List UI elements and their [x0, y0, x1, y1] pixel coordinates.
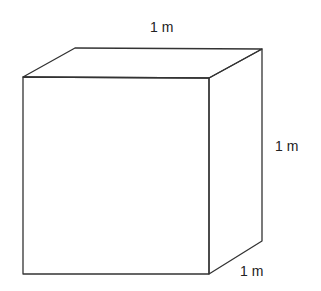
cube-right-face — [209, 49, 262, 274]
cube-top-face — [23, 48, 262, 78]
cube-diagram — [0, 0, 321, 291]
cube-front-face — [23, 77, 209, 274]
top-edge-dimension-label: 1 m — [150, 20, 173, 34]
height-dimension-label: 1 m — [275, 139, 298, 153]
depth-dimension-label: 1 m — [240, 264, 263, 278]
